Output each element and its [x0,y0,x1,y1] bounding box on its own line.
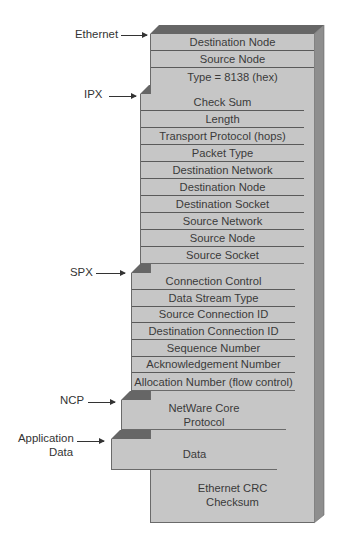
ncp-arrow-icon [88,402,115,403]
ethernet-field: Source Node [151,51,314,68]
application-data-label-line-1: Application [18,431,73,445]
ethernet-top-bevel [150,25,324,34]
ipx-header: Check Sum Length Transport Protocol (hop… [140,94,304,264]
ipx-field: Source Socket [141,247,304,263]
application-data-label: Application Data [18,431,73,459]
ipx-field: Source Network [141,213,304,230]
ethernet-field: Type = 8138 (hex) [151,68,314,85]
ipx-arrow-icon [109,96,136,97]
ipx-field: Source Node [141,230,304,247]
spx-field: Sequence Number [132,340,295,357]
ipx-field: Transport Protocol (hops) [141,128,304,145]
spx-header: Connection Control Data Stream Type Sour… [131,273,295,391]
ipx-field: Packet Type [141,145,304,162]
ethernet-field: Destination Node [151,34,314,51]
application-data-label-line-2: Data [18,445,73,459]
crc-line-1: Ethernet CRC [198,481,268,495]
application-data-block: Data [111,439,277,470]
ipx-field: Destination Node [141,179,304,196]
spx-arrow-icon [96,273,125,274]
spx-field: Destination Connection ID [132,323,295,340]
data-content: Data [112,439,277,469]
ipx-field: Check Sum [141,94,304,111]
ipx-field: Destination Socket [141,196,304,213]
ethernet-label: Ethernet [75,28,118,40]
ethernet-arrow-icon [121,35,147,36]
ncp-label: NCP [60,394,84,406]
ncp-line-2: Protocol [183,415,224,429]
spx-field: Acknowledgement Number [132,357,295,374]
ipx-label: IPX [84,88,102,100]
ethernet-crc-trailer: Ethernet CRC Checksum [151,470,314,520]
ipx-field: Length [141,111,304,128]
ncp-line-1: NetWare Core [168,401,239,415]
spx-label: SPX [70,266,93,278]
ncp-header: NetWare Core Protocol [121,400,286,430]
crc-line-2: Checksum [206,495,259,509]
spx-field: Source Connection ID [132,307,295,324]
ipx-field: Destination Network [141,162,304,179]
spx-field: Allocation Number (flow control) [132,373,295,390]
spx-field: Data Stream Type [132,290,295,307]
application-data-arrow-icon [77,441,104,442]
ethernet-side-face [314,25,324,523]
ncp-content: NetWare Core Protocol [122,400,286,429]
spx-field: Connection Control [132,273,295,290]
